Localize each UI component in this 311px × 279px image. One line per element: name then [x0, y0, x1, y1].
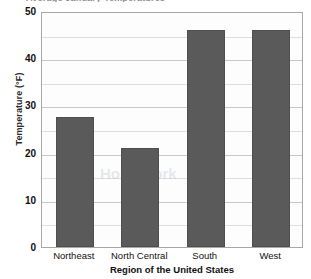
plot-area: Homework	[41, 12, 303, 248]
y-tick-label: 40	[2, 54, 36, 64]
bar-west	[252, 30, 290, 247]
bar-northeast	[56, 117, 94, 247]
x-axis-title: Region of the United States	[41, 264, 303, 275]
bar-south	[187, 30, 225, 247]
x-tick-label: North Central	[107, 250, 173, 262]
bar-north-central	[121, 148, 159, 247]
y-tick-label: 50	[2, 7, 36, 17]
chart-title: Average January Temperatures	[26, 0, 276, 2]
y-tick-label: 20	[2, 149, 36, 159]
y-tick-label: 10	[2, 196, 36, 206]
y-axis-tick-labels: 01020304050	[0, 12, 36, 248]
x-tick-label: Northeast	[41, 250, 107, 262]
y-tick-label: 30	[2, 101, 36, 111]
bars-layer	[42, 13, 302, 247]
x-axis-tick-labels: NortheastNorth CentralSouthWest	[41, 250, 303, 264]
x-tick-label: South	[172, 250, 238, 262]
x-tick-label: West	[238, 250, 304, 262]
y-tick-label: 0	[2, 243, 36, 253]
